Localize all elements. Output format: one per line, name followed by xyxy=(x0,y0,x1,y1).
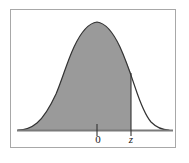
normal-distribution-plot xyxy=(11,10,175,147)
x-axis-label-z: z xyxy=(124,134,138,145)
figure-frame: 0 z xyxy=(10,9,176,148)
figure-root: 0 z xyxy=(0,0,189,163)
x-axis-label-zero: 0 xyxy=(91,134,105,145)
shaded-area-left-of-z xyxy=(18,22,131,130)
